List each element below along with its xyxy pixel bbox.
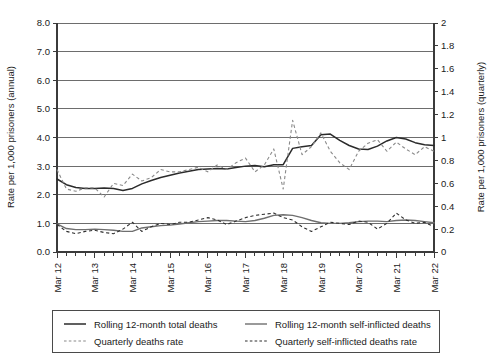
left-tick-label: 7.0 — [37, 46, 50, 57]
left-tick-label: 3.0 — [37, 161, 50, 172]
x-tick-label: Mar 21 — [391, 263, 402, 293]
right-tick-label: 1.6 — [441, 63, 454, 74]
x-tick-label: Mar 15 — [165, 263, 176, 293]
left-tick-label: 5.0 — [37, 103, 50, 114]
right-tick-label: 0.6 — [441, 178, 454, 189]
right-tick-label: 1.8 — [441, 40, 454, 51]
chart-background — [0, 0, 497, 363]
legend-label: Quarterly self-inflicted deaths rate — [275, 336, 417, 347]
legend-label: Quarterly deaths rate — [94, 336, 183, 347]
right-tick-label: 1.4 — [441, 86, 454, 97]
x-tick-label: Mar 14 — [127, 263, 138, 293]
left-tick-label: 4.0 — [37, 132, 50, 143]
left-tick-label: 1.0 — [37, 218, 50, 229]
x-tick-label: Mar 12 — [52, 263, 63, 293]
right-tick-label: 0.8 — [441, 155, 454, 166]
legend-label: Rolling 12-month self-inflicted deaths — [275, 319, 431, 330]
left-axis-title: Rate per 1,000 prisoners (annual) — [5, 66, 16, 208]
x-tick-label: Mar 22 — [429, 263, 440, 293]
left-tick-label: 6.0 — [37, 75, 50, 86]
x-tick-label: Mar 20 — [353, 263, 364, 293]
chart-container: 0.01.02.03.04.05.06.07.08.0 00.20.40.60.… — [0, 0, 497, 363]
right-tick-label: 0.4 — [441, 201, 454, 212]
left-tick-label: 8.0 — [37, 17, 50, 28]
x-tick-label: Mar 17 — [240, 263, 251, 293]
left-tick-label: 2.0 — [37, 189, 50, 200]
legend-label: Rolling 12-month total deaths — [94, 319, 218, 330]
left-tick-label: 0.0 — [37, 246, 50, 257]
deaths-in-prison-custody-chart: 0.01.02.03.04.05.06.07.08.0 00.20.40.60.… — [0, 0, 497, 363]
x-tick-label: Mar 18 — [278, 263, 289, 293]
right-tick-label: 2 — [441, 17, 446, 28]
right-tick-label: 1.2 — [441, 109, 454, 120]
chart-legend: Rolling 12-month total deathsRolling 12-… — [52, 310, 439, 352]
x-tick-label: Mar 19 — [316, 263, 327, 293]
x-tick-label: Mar 13 — [89, 263, 100, 293]
right-tick-label: 0.2 — [441, 224, 454, 235]
right-tick-label: 1 — [441, 132, 446, 143]
right-axis-title: Rate per 1,000 prisoners (quarterly) — [475, 62, 486, 213]
x-tick-label: Mar 16 — [202, 263, 213, 293]
right-tick-label: 0 — [441, 246, 446, 257]
